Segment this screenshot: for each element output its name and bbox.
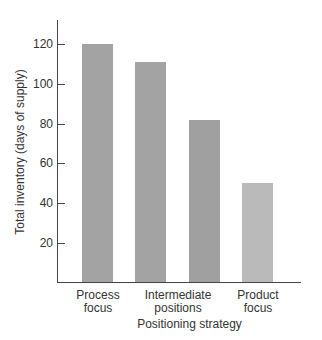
x-axis — [57, 282, 301, 283]
category-label-intermediate: Intermediate positions — [133, 289, 223, 315]
y-tick-label: 120 — [17, 37, 53, 51]
y-tick-label: 60 — [17, 156, 53, 170]
y-tick — [57, 44, 65, 45]
y-tick — [57, 84, 65, 85]
y-tick-label: 20 — [17, 236, 53, 250]
y-tick-label: 100 — [17, 77, 53, 91]
category-line: focus — [213, 302, 303, 315]
bar-process-focus — [82, 44, 113, 282]
y-tick — [57, 203, 65, 204]
bar-intermediate-2 — [189, 120, 220, 282]
x-axis-label-text: Positioning strategy — [137, 317, 242, 331]
category-line: focus — [53, 302, 143, 315]
bar-intermediate-1 — [135, 62, 166, 282]
category-line: positions — [133, 302, 223, 315]
y-tick — [57, 243, 65, 244]
y-tick — [57, 124, 65, 125]
y-tick-label: 80 — [17, 117, 53, 131]
bar-product-focus — [242, 183, 273, 282]
y-tick-label: 40 — [17, 196, 53, 210]
x-axis-label: Positioning strategy — [0, 317, 322, 331]
category-label-product: Product focus — [213, 289, 303, 315]
y-tick — [57, 163, 65, 164]
category-label-process: Process focus — [53, 289, 143, 315]
